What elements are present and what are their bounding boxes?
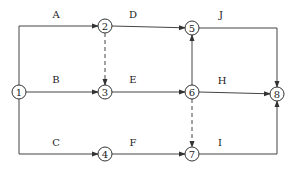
edge-label-i: I — [218, 137, 222, 148]
edge-label-f: F — [130, 137, 137, 148]
edge-h — [199, 92, 270, 94]
node-3: 3 — [98, 85, 112, 99]
edge-label-c: C — [52, 137, 60, 148]
node-2: 2 — [98, 19, 112, 33]
svg-text:3: 3 — [102, 87, 108, 98]
svg-text:4: 4 — [102, 149, 108, 160]
edge-label-a: A — [51, 9, 60, 20]
svg-text:1: 1 — [16, 87, 22, 98]
edge-label-b: B — [52, 74, 59, 85]
edge-d — [112, 26, 185, 28]
edge-i — [199, 101, 277, 154]
edge-label-d: D — [129, 9, 137, 20]
node-7: 7 — [185, 147, 199, 161]
edge-label-h: H — [218, 75, 227, 86]
edge-j — [199, 28, 277, 87]
network-diagram: A D J B E H C F I 1 2 3 4 5 6 7 8 — [0, 0, 293, 173]
node-5: 5 — [185, 21, 199, 35]
svg-text:7: 7 — [189, 149, 195, 160]
svg-text:5: 5 — [189, 23, 195, 34]
node-6: 6 — [185, 85, 199, 99]
node-1: 1 — [12, 85, 26, 99]
node-4: 4 — [98, 147, 112, 161]
edge-label-j: J — [218, 9, 223, 20]
svg-text:2: 2 — [102, 21, 108, 32]
node-8: 8 — [270, 87, 284, 101]
edge-label-e: E — [129, 74, 136, 85]
svg-text:8: 8 — [274, 89, 280, 100]
svg-text:6: 6 — [189, 87, 195, 98]
